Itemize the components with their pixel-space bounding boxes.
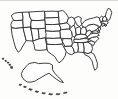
state-WA[interactable] — [12, 12, 23, 20]
state-NE[interactable] — [45, 24, 60, 31]
aleutian-island-7 — [56, 94, 60, 95]
aleutian-island-3 — [29, 88, 33, 90]
region-hawaii-inset — [2, 58, 13, 68]
region-conterminous-us — [11, 8, 112, 70]
state-AR[interactable] — [63, 39, 73, 47]
state-NJ[interactable] — [98, 27, 100, 30]
state-SD[interactable] — [45, 17, 59, 24]
state-KS[interactable] — [46, 31, 61, 38]
us-map-figure: United States Map — [0, 0, 118, 99]
state-IN[interactable] — [76, 27, 81, 35]
hawaii-island-molokai — [7, 62, 9, 63]
aleutian-island-5 — [42, 92, 46, 94]
state-OK[interactable] — [46, 38, 62, 45]
state-FL[interactable] — [84, 52, 97, 70]
state-AL[interactable] — [78, 43, 84, 53]
aleutian-island-4 — [35, 91, 39, 93]
hawaii-island-kauai — [2, 58, 4, 59]
state-ND[interactable] — [45, 11, 59, 18]
state-MT[interactable] — [29, 11, 45, 20]
state-WY[interactable] — [31, 20, 46, 29]
hawaii-island-oahu — [5, 60, 7, 61]
aleutian-island-6 — [49, 93, 53, 95]
aleutian-island-8 — [63, 92, 67, 93]
aleutian-island-2 — [23, 86, 26, 88]
aleutian-island-1 — [19, 84, 22, 86]
state-TX[interactable] — [47, 44, 67, 63]
hawaii-island-maui — [9, 64, 11, 65]
state-MI[interactable] — [74, 16, 82, 26]
region-alaska-inset — [19, 62, 67, 95]
state-ME[interactable] — [105, 8, 111, 20]
us-map-svg: United States Map — [0, 0, 118, 99]
state-AK[interactable] — [21, 62, 63, 82]
hawaii-island-hawaii — [10, 66, 12, 68]
state-OR[interactable] — [11, 20, 23, 28]
